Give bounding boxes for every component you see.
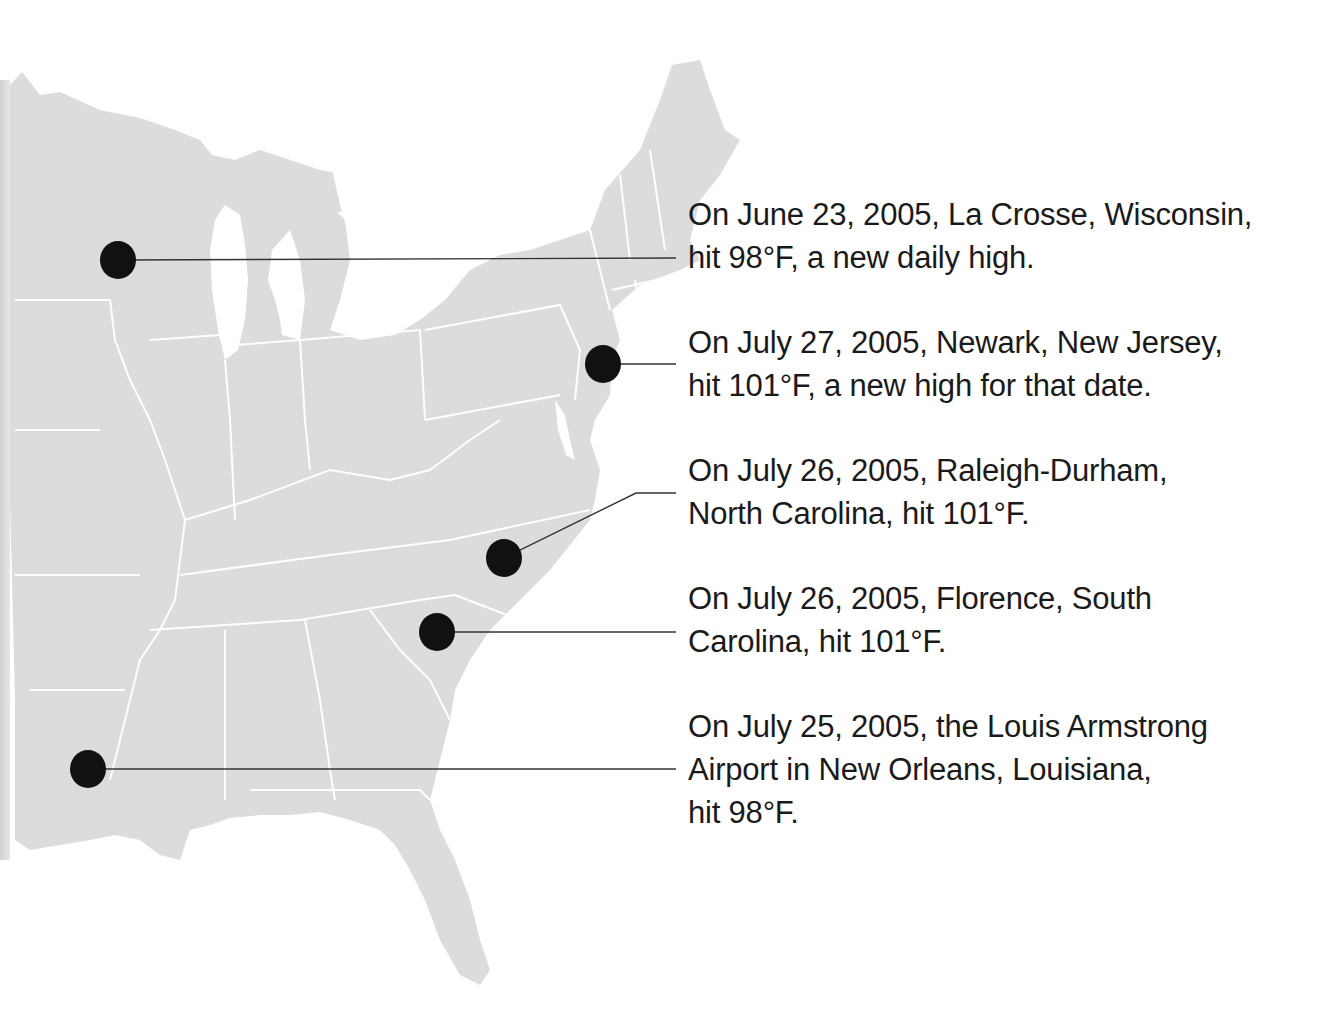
annotation-newark: On July 27, 2005, Newark, New Jersey, hi… xyxy=(688,321,1223,407)
annotation-line: On July 27, 2005, Newark, New Jersey, xyxy=(688,321,1223,364)
annotation-line: Airport in New Orleans, Louisiana, xyxy=(688,748,1208,791)
annotation-line: On July 26, 2005, Florence, South xyxy=(688,577,1152,620)
annotation-line: hit 101°F, a new high for that date. xyxy=(688,364,1223,407)
marker-raleigh-durham[interactable] xyxy=(486,539,522,577)
annotation-florence: On July 26, 2005, Florence, South Caroli… xyxy=(688,577,1152,663)
marker-new-orleans[interactable] xyxy=(70,750,106,788)
marker-newark[interactable] xyxy=(585,345,621,383)
annotation-la-crosse: On June 23, 2005, La Crosse, Wisconsin, … xyxy=(688,193,1252,279)
annotation-new-orleans: On July 25, 2005, the Louis Armstrong Ai… xyxy=(688,705,1208,834)
annotation-line: Carolina, hit 101°F. xyxy=(688,620,1152,663)
annotation-line: On July 25, 2005, the Louis Armstrong xyxy=(688,705,1208,748)
annotation-line: On June 23, 2005, La Crosse, Wisconsin, xyxy=(688,193,1252,236)
annotation-line: hit 98°F. xyxy=(688,791,1208,834)
annotation-line: hit 98°F, a new daily high. xyxy=(688,236,1252,279)
annotation-raleigh-durham: On July 26, 2005, Raleigh-Durham, North … xyxy=(688,449,1167,535)
annotation-line: North Carolina, hit 101°F. xyxy=(688,492,1167,535)
annotation-line: On July 26, 2005, Raleigh-Durham, xyxy=(688,449,1167,492)
marker-la-crosse[interactable] xyxy=(100,241,136,279)
marker-florence[interactable] xyxy=(419,613,455,651)
